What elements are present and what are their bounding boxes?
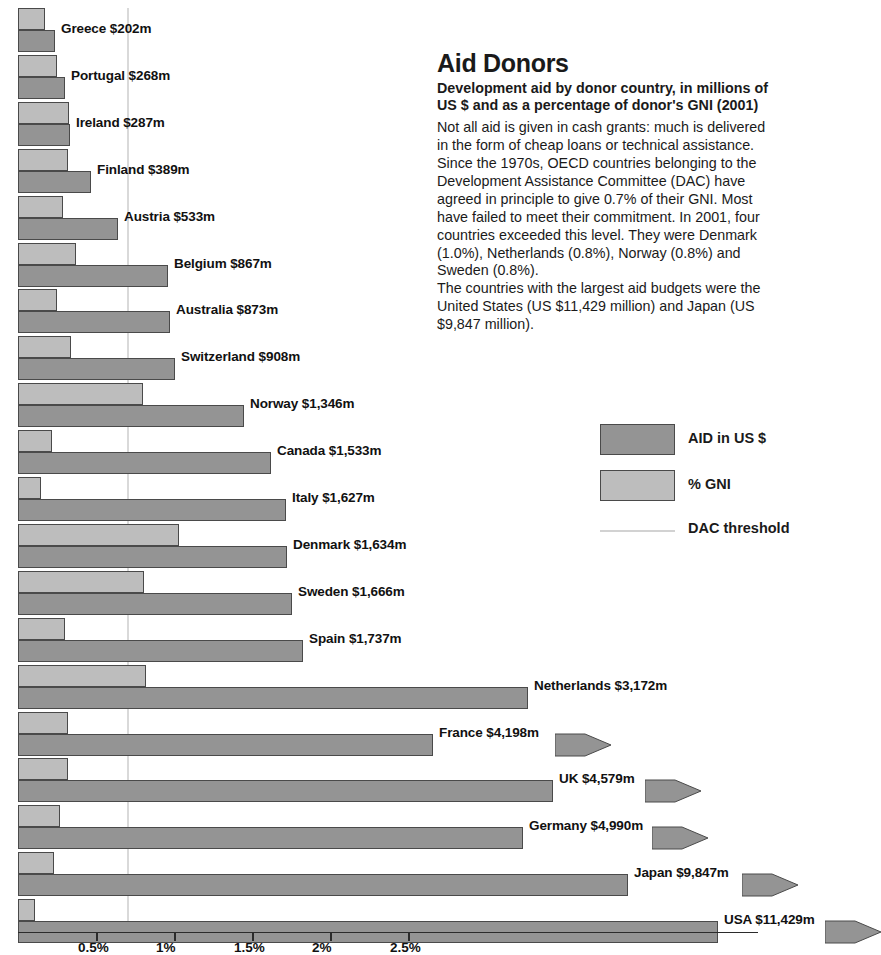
legend-label-aid: AID in US $ [688,430,766,446]
bar-row-label: Norway $1,346m [250,396,354,411]
aid-bar [18,687,528,709]
aid-bar [18,546,287,568]
bar-row-label: Australia $873m [176,302,278,317]
aid-bar [18,734,433,756]
page-title: Aid Donors [437,50,775,78]
offscale-arrow-icon [742,870,798,900]
legend: AID in US $ % GNI DAC threshold [600,424,780,562]
x-axis-tick-label: 1.5% [234,940,265,955]
bar-row-label: Greece $202m [61,21,151,36]
gni-bar [18,571,144,593]
bar-row-label: Denmark $1,634m [293,537,406,552]
gni-bar [18,477,41,499]
bar-row-label: France $4,198m [439,725,539,740]
legend-line-threshold-icon [600,530,675,532]
bar-row-label: Spain $1,737m [309,631,402,646]
bar-row-label: Switzerland $908m [181,349,300,364]
aid-bar [18,171,91,193]
gni-bar [18,712,68,734]
x-axis-tick-label: 2.5% [390,940,421,955]
bar-row-label: Ireland $287m [76,115,165,130]
aid-bar [18,452,271,474]
gni-bar [18,149,68,171]
legend-item-threshold: DAC threshold [600,516,780,562]
description-paragraph-1: Not all aid is given in cash grants: muc… [437,119,775,280]
legend-label-threshold: DAC threshold [688,520,790,536]
aid-bar [18,77,65,99]
offscale-arrow-icon [652,823,708,853]
offscale-arrow-icon [825,917,881,947]
info-panel: Aid Donors Development aid by donor coun… [437,50,775,334]
x-axis-tick-label: 0.5% [78,940,109,955]
legend-swatch-gni-icon [600,470,675,501]
gni-bar [18,665,146,687]
aid-bar [18,218,118,240]
gni-bar [18,243,76,265]
aid-bar [18,358,175,380]
bar-row-label: Austria $533m [124,209,215,224]
description-text: Not all aid is given in cash grants: muc… [437,119,775,334]
bar-row-label: Canada $1,533m [277,443,381,458]
bar-row-label: Germany $4,990m [529,818,643,833]
bar-row-label: Netherlands $3,172m [534,678,667,693]
aid-bar [18,640,303,662]
aid-bar [18,311,170,333]
bar-row-label: Italy $1,627m [292,490,375,505]
gni-bar [18,899,35,921]
x-axis-tick-label: 1% [156,940,176,955]
aid-bar [18,827,523,849]
bar-row-label: Sweden $1,666m [298,584,405,599]
gni-bar [18,524,179,546]
aid-bar [18,874,628,896]
gni-bar [18,852,54,874]
gni-bar [18,196,63,218]
gni-bar [18,8,45,30]
description-paragraph-2: The countries with the largest aid budge… [437,280,775,334]
offscale-arrow-icon [555,730,611,760]
gni-bar [18,289,57,311]
bar-row-label: Japan $9,847m [634,865,729,880]
gni-bar [18,618,65,640]
gni-bar [18,805,60,827]
aid-bar [18,30,55,52]
aid-bar [18,780,553,802]
x-axis-rule [18,932,758,933]
bar-row-label: USA $11,429m [724,912,815,927]
gni-bar [18,336,71,358]
bar-row-label: Portugal $268m [71,68,170,83]
gni-bar [18,55,57,77]
gni-bar [18,383,143,405]
bar-row-label: UK $4,579m [559,771,635,786]
bar-row-label: Finland $389m [97,162,189,177]
aid-bar [18,265,168,287]
aid-bar [18,593,292,615]
aid-bar [18,405,244,427]
legend-item-gni: % GNI [600,470,780,516]
gni-bar [18,430,52,452]
aid-bar [18,499,286,521]
gni-bar [18,102,69,124]
bar-row-label: Belgium $867m [174,256,272,271]
offscale-arrow-icon [645,776,701,806]
gni-bar [18,758,68,780]
chart-subtitle: Development aid by donor country, in mil… [437,80,775,115]
legend-item-aid: AID in US $ [600,424,780,470]
aid-bar [18,124,70,146]
x-axis-tick-label: 2% [312,940,332,955]
legend-label-gni: % GNI [688,476,731,492]
legend-swatch-aid-icon [600,424,675,455]
